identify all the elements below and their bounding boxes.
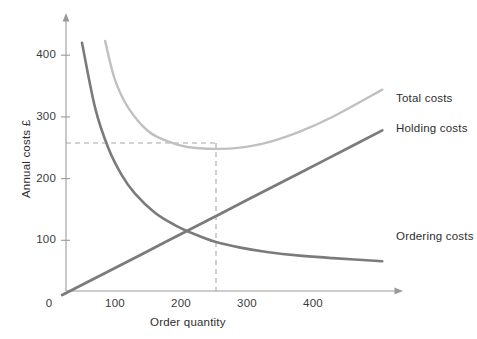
x-axis-arrowhead bbox=[395, 288, 404, 295]
y-tick-label-100: 100 bbox=[26, 233, 56, 245]
ordering-costs-curve bbox=[82, 43, 382, 261]
guide-lines bbox=[66, 143, 216, 291]
axis-lines bbox=[63, 13, 403, 294]
y-tick-label-400: 400 bbox=[26, 48, 56, 60]
legend-label-ordering-costs: Ordering costs bbox=[396, 230, 474, 242]
eoq-cost-chart: 400 300 200 100 0 100 200 300 400 Order … bbox=[0, 0, 477, 339]
y-axis-title: Annual costs £ bbox=[20, 120, 32, 198]
x-axis-title: Order quantity bbox=[150, 316, 226, 328]
total-costs-curve bbox=[105, 41, 382, 149]
x-tick-label-300: 300 bbox=[231, 297, 263, 309]
x-tick-label-200: 200 bbox=[165, 297, 197, 309]
legend-label-holding-costs: Holding costs bbox=[396, 122, 468, 134]
x-tick-label-0: 0 bbox=[33, 297, 65, 309]
chart-plot-area bbox=[0, 0, 477, 339]
x-tick-label-100: 100 bbox=[99, 297, 131, 309]
x-tick-label-400: 400 bbox=[297, 297, 329, 309]
y-axis-arrowhead bbox=[63, 13, 70, 22]
legend-label-total-costs: Total costs bbox=[396, 92, 453, 104]
